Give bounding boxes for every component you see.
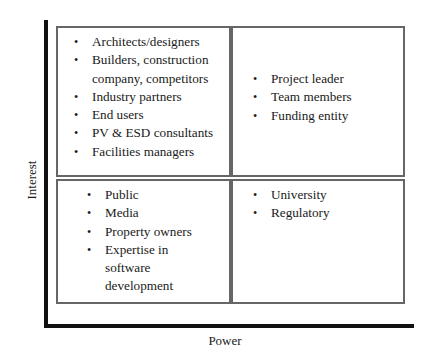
quadrant-high-interest-high-power: Project leader Team members Funding enti…	[231, 26, 405, 177]
y-axis-label: Interest	[24, 158, 40, 202]
list-item: Project leader	[251, 70, 352, 88]
stakeholder-list: Project leader Team members Funding enti…	[251, 70, 352, 125]
list-item: Team members	[251, 88, 352, 106]
list-item: Architects/designers	[72, 33, 229, 51]
quadrant-low-interest-low-power: Public Media Property owners Expertise i…	[56, 179, 231, 304]
list-item: Builders, construction company, competit…	[72, 51, 229, 88]
quadrant-high-interest-low-power: Architects/designers Builders, construct…	[56, 26, 231, 177]
list-item: Industry partners	[72, 88, 229, 106]
list-item: Property owners	[85, 223, 215, 241]
x-axis-label: Power	[190, 333, 260, 349]
list-item: PV & ESD consultants	[72, 124, 229, 142]
list-item: Media	[85, 204, 215, 222]
stakeholder-list: University Regulatory	[251, 186, 330, 223]
quadrant-low-interest-high-power: University Regulatory	[231, 179, 405, 304]
y-axis-line	[44, 20, 48, 328]
list-item: End users	[72, 106, 229, 124]
x-axis-line	[44, 324, 414, 328]
list-item: University	[251, 186, 330, 204]
list-item: Facilities managers	[72, 143, 229, 161]
list-item: Expertise in software development	[85, 241, 185, 296]
stakeholder-list: Architects/designers Builders, construct…	[72, 33, 229, 161]
stakeholder-list: Public Media Property owners Expertise i…	[85, 186, 215, 296]
list-item: Public	[85, 186, 215, 204]
list-item: Funding entity	[251, 107, 352, 125]
list-item: Regulatory	[251, 204, 330, 222]
